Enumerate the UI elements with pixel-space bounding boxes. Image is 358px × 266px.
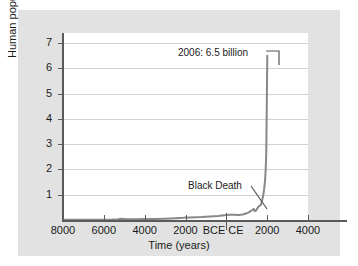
peak-leader-line <box>266 51 279 65</box>
figure-background: 1234567 800060004000200020004000BCECE Hu… <box>18 10 340 256</box>
annotation-leader-lines <box>18 10 340 256</box>
black-death-leader-line <box>251 186 267 209</box>
y-axis-label: Human population (billions) <box>6 0 18 58</box>
